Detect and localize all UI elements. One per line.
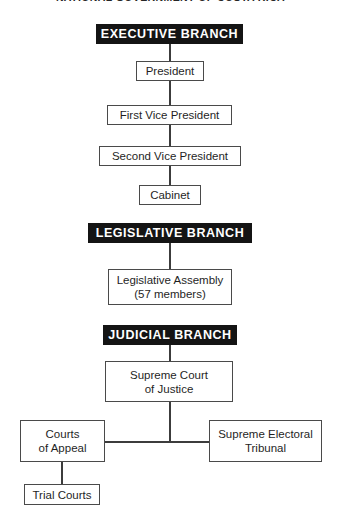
node-courts-of-appeal-label-line1: Courts xyxy=(46,427,80,441)
node-supreme-court-label-line1: Supreme Court xyxy=(130,368,208,382)
node-first-vice-president[interactable]: First Vice President xyxy=(107,105,232,125)
page-title: NATIONAL GOVERNMENT OF COSTA RICA xyxy=(0,0,341,3)
connector-executive-president xyxy=(169,43,171,61)
node-cabinet-label: Cabinet xyxy=(150,188,190,202)
node-trial-courts-label: Trial Courts xyxy=(33,488,92,502)
org-chart: NATIONAL GOVERNMENT OF COSTA RICA EXECUT… xyxy=(0,0,341,522)
banner-executive-branch[interactable]: EXECUTIVE BRANCH xyxy=(96,24,243,44)
node-legislative-assembly-label-line2: (57 members) xyxy=(134,287,206,301)
node-legislative-assembly-label-line1: Legislative Assembly xyxy=(117,273,224,287)
node-first-vice-president-label: First Vice President xyxy=(120,108,220,122)
node-second-vice-president-label: Second Vice President xyxy=(112,149,228,163)
node-supreme-electoral-label-line2: Tribunal xyxy=(245,441,286,455)
node-cabinet[interactable]: Cabinet xyxy=(139,185,201,205)
connector-courtsofappeal-trialcourts xyxy=(61,462,63,484)
node-supreme-electoral-tribunal[interactable]: Supreme Electoral Tribunal xyxy=(209,420,322,462)
connector-supremecourt-bus xyxy=(169,402,171,442)
node-courts-of-appeal[interactable]: Courts of Appeal xyxy=(20,420,105,462)
node-trial-courts[interactable]: Trial Courts xyxy=(24,484,100,505)
node-courts-of-appeal-label-line2: of Appeal xyxy=(39,441,87,455)
node-supreme-court-label-line2: of Justice xyxy=(145,382,194,396)
connector-legislative-assembly xyxy=(169,242,171,270)
node-second-vice-president[interactable]: Second Vice President xyxy=(99,146,241,166)
connector-secondvp-cabinet xyxy=(169,165,171,185)
connector-president-firstvp xyxy=(169,80,171,106)
node-president[interactable]: President xyxy=(136,61,204,81)
banner-legislative-branch[interactable]: LEGISLATIVE BRANCH xyxy=(88,223,252,243)
connector-firstvp-secondvp xyxy=(169,124,171,146)
node-president-label: President xyxy=(146,64,195,78)
node-supreme-electoral-label-line1: Supreme Electoral xyxy=(218,427,313,441)
banner-judicial-branch[interactable]: JUDICIAL BRANCH xyxy=(103,325,237,345)
connector-judicial-supremecourt xyxy=(169,344,171,361)
node-legislative-assembly[interactable]: Legislative Assembly (57 members) xyxy=(108,269,232,305)
node-supreme-court-of-justice[interactable]: Supreme Court of Justice xyxy=(105,361,233,402)
